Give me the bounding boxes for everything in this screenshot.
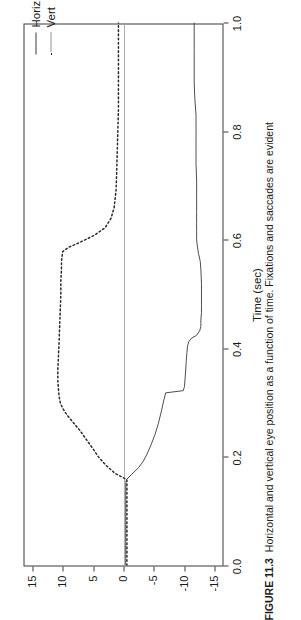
y-tick-label: -15 [208,575,219,591]
figure-caption-space [262,552,274,558]
rotated-figure-container: Degrees 0.00.20.40.60.81.0151050-5-10-15 [0,0,301,620]
x-tick-mark [223,348,228,349]
x-tick-label: 0.2 [231,450,242,465]
y-tick-mark [93,566,94,571]
x-tick-mark [223,22,228,23]
figure-page: Degrees 0.00.20.40.60.81.0151050-5-10-15 [0,0,301,620]
figure-caption-label: FIGURE 11.3 [262,558,274,620]
x-tick-label: 1.0 [231,15,242,30]
x-tick-mark [223,131,228,132]
legend-label-vert: Vert [43,7,58,27]
legend-item-horiz: Horiz [28,0,43,54]
horiz-series-line [125,22,201,565]
x-tick-label: 0.6 [231,233,242,248]
plot-frame [23,23,223,566]
chart-legend: Horiz Vert [28,0,58,54]
y-tick-mark [184,566,185,571]
legend-label-horiz: Horiz [28,0,43,27]
figure-caption-text: Horizontal and vertical eye position as … [262,122,274,552]
y-tick-label: -10 [178,575,189,591]
y-tick-mark [123,566,124,571]
legend-key-solid-icon [35,32,36,54]
y-tick-label: 5 [87,575,98,581]
y-tick-label: 0 [118,575,129,581]
x-tick-mark [223,456,228,457]
y-tick-mark [32,566,33,571]
y-tick-mark [153,566,154,571]
x-tick-label: 0.0 [231,558,242,573]
legend-key-dotted-icon [50,32,51,54]
figure-caption: FIGURE 11.3 Horizontal and vertical eye … [262,0,275,620]
x-tick-mark [223,239,228,240]
vert-series-line [57,22,126,565]
y-tick-mark [214,566,215,571]
chart-canvas [24,22,224,565]
x-tick-label: 0.4 [231,341,242,356]
y-tick-label: 15 [27,575,38,587]
x-tick-label: 0.8 [231,124,242,139]
plot-area: Degrees 0.00.20.40.60.81.0151050-5-10-15 [0,0,248,620]
x-tick-mark [223,565,228,566]
x-axis-label: Time (sec) [250,23,262,566]
y-tick-label: -5 [148,575,159,585]
vert-series-group [57,22,126,565]
y-tick-mark [62,566,63,571]
horiz-series-group [125,22,201,565]
legend-item-vert: Vert [43,0,58,54]
y-tick-label: 10 [57,575,68,587]
